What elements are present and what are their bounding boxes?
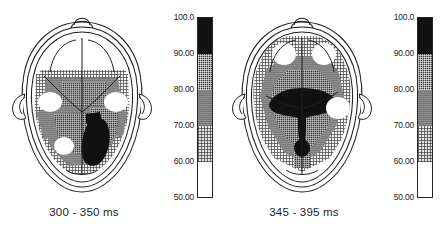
colorbar-tick-100: 100.0	[156, 13, 194, 22]
colorbar-tick-70: 70.00	[156, 121, 194, 130]
colorbar-band-60-70	[198, 126, 212, 162]
brain-map-left	[6, 8, 158, 200]
ear-left-side	[233, 94, 246, 119]
panel-right: 345 - 395 ms 100.0 90.00 80.00 70.00 60.…	[220, 0, 440, 238]
panel-caption-left: 300 - 350 ms	[0, 206, 168, 218]
colorbar-band-50-60	[198, 162, 212, 198]
colorbar-tick-90: 90.00	[376, 49, 414, 58]
colorbar-tick-80: 80.00	[156, 85, 194, 94]
colorbar-gradient-right	[417, 17, 433, 198]
brain-map-left-svg	[6, 8, 158, 200]
ear-left-side	[13, 94, 26, 119]
panel-caption-right: 345 - 395 ms	[220, 206, 388, 218]
colorbar-tick-80: 80.00	[376, 85, 414, 94]
colorbar-band-50-60	[418, 162, 432, 198]
colorbar-tick-60: 60.00	[156, 157, 194, 166]
panel-left: 300 - 350 ms 100.0 90.00 80.00 70.00 60.…	[0, 0, 220, 238]
colorbar-band-60-70	[418, 126, 432, 162]
colorbar-band-90-100	[418, 18, 432, 54]
colorbar-tick-70: 70.00	[376, 121, 414, 130]
colorbar-ticks-right: 100.0 90.00 80.00 70.00 60.00 50.00	[376, 14, 414, 204]
colorbar-tick-60: 60.00	[376, 157, 414, 166]
colorbar-ticks-left: 100.0 90.00 80.00 70.00 60.00 50.00	[156, 14, 194, 204]
colorbar-band-80-90	[418, 54, 432, 90]
colorbar-right: 100.0 90.00 80.00 70.00 60.00 50.00	[376, 14, 438, 204]
colorbar-gradient-left	[197, 17, 213, 198]
colorbar-tick-50: 50.00	[376, 193, 414, 202]
ear-right-side	[138, 94, 151, 119]
colorbar-tick-90: 90.00	[156, 49, 194, 58]
colorbar-band-80-90	[198, 54, 212, 90]
brain-map-right-svg	[226, 8, 378, 200]
colorbar-band-90-100	[198, 18, 212, 54]
colorbar-band-70-80	[198, 90, 212, 126]
ear-right-side	[358, 94, 371, 119]
colorbar-left: 100.0 90.00 80.00 70.00 60.00 50.00	[156, 14, 218, 204]
colorbar-tick-50: 50.00	[156, 193, 194, 202]
colorbar-tick-100: 100.0	[376, 13, 414, 22]
figure-canvas: 300 - 350 ms 100.0 90.00 80.00 70.00 60.…	[0, 0, 440, 238]
brain-map-right	[226, 8, 378, 200]
colorbar-band-70-80	[418, 90, 432, 126]
